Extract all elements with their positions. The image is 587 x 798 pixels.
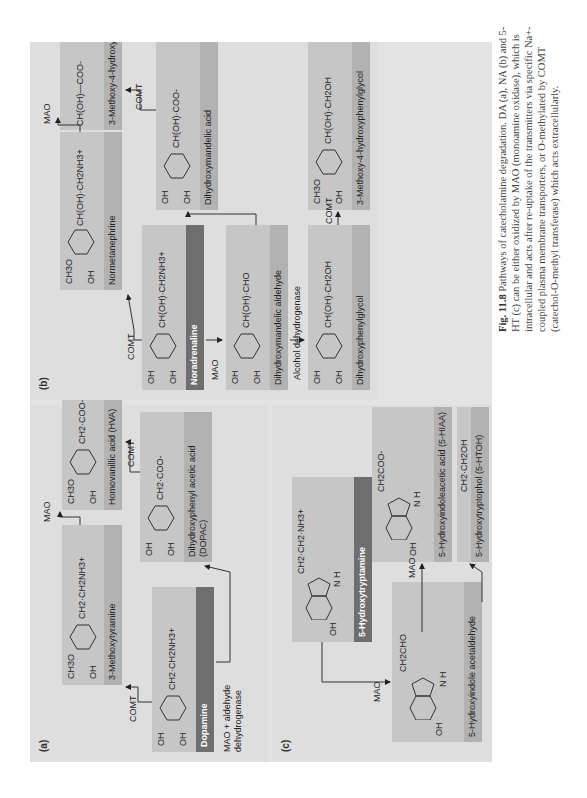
pathway-arrows — [272, 405, 492, 762]
panel-a: (a) CH3O OH CH2·CH2NH3+ 3-Methoxytyramin… — [30, 405, 268, 762]
pathway-arrows — [30, 42, 378, 400]
pathway-arrows — [30, 405, 268, 762]
panel-c: (c) OH N H CH2·CH2·NH3+ 5-Hydroxytryptam… — [272, 405, 492, 762]
figure-number: Fig. 11.8 — [497, 294, 508, 332]
panel-b: (b) CH3O OH CH(OH)·CH2NH3+ Normetanephri… — [30, 42, 378, 400]
figure-caption: Fig. 11.8 Pathways of catecholamine degr… — [496, 20, 561, 332]
rotated-figure: (a) CH3O OH CH2·CH2NH3+ 3-Methoxytyramin… — [0, 0, 587, 798]
caption-text: Pathways of catecholamine degradation. D… — [497, 26, 560, 332]
